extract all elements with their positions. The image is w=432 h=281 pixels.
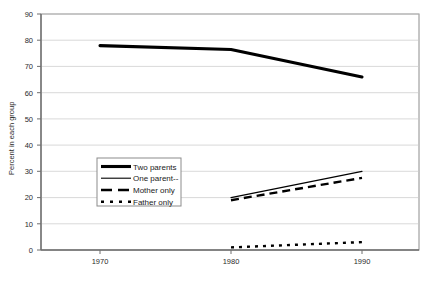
- x-tick-label-1990: 1990: [354, 257, 371, 266]
- legend-label-two-parents: Two parents: [133, 163, 177, 172]
- y-tick-label-60: 60: [25, 89, 33, 98]
- y-tick-label-10: 10: [25, 220, 33, 229]
- x-tick-label-1970: 1970: [92, 257, 109, 266]
- line-chart: 90 80 70 60 50 40 30 20 10 0 Percent in …: [0, 0, 432, 281]
- legend-label-father-only: Father only: [133, 198, 173, 207]
- y-tick-label-0: 0: [29, 246, 33, 255]
- chart-legend: Two parents One parent-- Mother only Fat…: [97, 158, 181, 207]
- y-tick-label-30: 30: [25, 167, 33, 176]
- legend-label-one-parent: One parent--: [133, 174, 179, 183]
- y-tick-label-20: 20: [25, 193, 33, 202]
- y-tick-label-50: 50: [25, 115, 33, 124]
- x-tick-label-1980: 1980: [223, 257, 240, 266]
- y-tick-label-40: 40: [25, 141, 33, 150]
- y-axis-title: Percent in each group: [7, 102, 16, 175]
- y-tick-label-70: 70: [25, 62, 33, 71]
- y-tick-label-80: 80: [25, 36, 33, 45]
- chart-container: 90 80 70 60 50 40 30 20 10 0 Percent in …: [0, 0, 432, 281]
- y-tick-label-90: 90: [25, 10, 33, 19]
- legend-label-mother-only: Mother only: [133, 186, 175, 195]
